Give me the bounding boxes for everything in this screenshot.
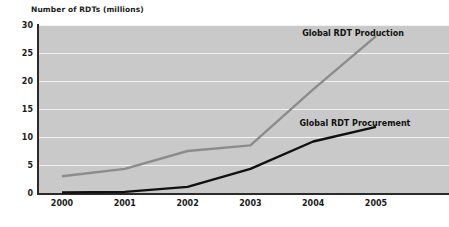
y-tick-label: 25 bbox=[22, 49, 33, 58]
gridline bbox=[38, 165, 449, 166]
y-tick-label: 10 bbox=[22, 133, 33, 142]
y-tick-label: 5 bbox=[27, 161, 33, 170]
chart-title: Number of RDTs (millions) bbox=[31, 5, 144, 14]
x-tick-label: 2000 bbox=[51, 199, 73, 208]
gridline bbox=[38, 109, 449, 110]
y-tick-label: 15 bbox=[22, 105, 33, 114]
y-tick-label: 0 bbox=[27, 189, 33, 198]
y-tick-label: 30 bbox=[22, 21, 33, 30]
plot-area bbox=[38, 25, 449, 193]
x-tick-label: 2004 bbox=[302, 199, 324, 208]
gridline bbox=[38, 25, 449, 26]
x-tick-label: 2002 bbox=[176, 199, 198, 208]
y-axis-line bbox=[37, 24, 39, 194]
x-tick-label: 2005 bbox=[365, 199, 387, 208]
x-tick-label: 2001 bbox=[114, 199, 136, 208]
x-tick-label: 2003 bbox=[239, 199, 261, 208]
y-axis-tick-labels: 051015202530 bbox=[0, 25, 33, 193]
x-axis-line bbox=[37, 193, 449, 195]
series-label: Global RDT Production bbox=[302, 29, 404, 38]
y-tick-label: 20 bbox=[22, 77, 33, 86]
chart-figure: Number of RDTs (millions) 051015202530 G… bbox=[0, 0, 449, 227]
gridline bbox=[38, 53, 449, 54]
series-label: Global RDT Procurement bbox=[300, 119, 411, 128]
gridline bbox=[38, 81, 449, 82]
gridline bbox=[38, 137, 449, 138]
